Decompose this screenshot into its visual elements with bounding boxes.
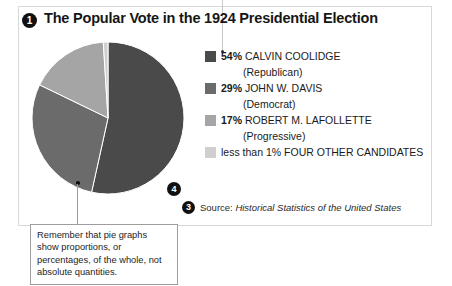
source-title: Historical Statistics of the United Stat… [235, 202, 401, 213]
legend-name-davis: JOHN W. DAVIS [245, 82, 322, 94]
legend-pct-coolidge: 54% [221, 50, 242, 62]
legend-pct-lafollette: 17% [221, 114, 242, 126]
legend-name-other: FOUR OTHER CANDIDATES [284, 146, 423, 158]
legend-item-davis: 29% JOHN W. DAVIS [205, 81, 445, 96]
legend-pct-other-value: less than 1% [221, 146, 281, 158]
legend-swatch-other [205, 147, 216, 158]
legend-pct-davis: 29% [221, 82, 242, 94]
annotation-callout-box: Remember that pie graphs show proportion… [30, 224, 178, 285]
page-title: The Popular Vote in the 1924 Presidentia… [44, 10, 378, 26]
legend-name-lafollette: ROBERT M. LAFOLLETTE [245, 114, 372, 126]
legend-label-lafollette: 17% ROBERT M. LAFOLLETTE [221, 113, 372, 128]
legend-label-coolidge: 54% CALVIN COOLIDGE [221, 49, 340, 64]
pie-slices [32, 42, 184, 194]
legend-swatch-davis [205, 83, 216, 94]
legend-item-other: less than 1% FOUR OTHER CANDIDATES [205, 145, 445, 160]
legend-label-other: less than 1% FOUR OTHER CANDIDATES [221, 145, 423, 160]
legend-party-coolidge: (Republican) [221, 65, 445, 80]
annotation-text: Remember that pie graphs show proportion… [37, 229, 171, 279]
legend-item-lafollette: 17% ROBERT M. LAFOLLETTE [205, 113, 445, 128]
pie-chart [31, 41, 185, 195]
callout-marker-4: 4 [167, 182, 181, 196]
legend-party-lafollette: (Progressive) [221, 129, 445, 144]
pie-leader-line [77, 184, 78, 224]
legend-label-davis: 29% JOHN W. DAVIS [221, 81, 322, 96]
legend-swatch-coolidge [205, 51, 216, 62]
legend: 54% CALVIN COOLIDGE (Republican) 29% JOH… [205, 49, 445, 161]
callout-marker-3: 3 [182, 201, 195, 214]
callout-marker-1: 1 [22, 13, 37, 28]
legend-party-davis: (Democrat) [221, 97, 445, 112]
source-line: Source: Historical Statistics of the Uni… [200, 201, 401, 214]
legend-swatch-lafollette [205, 115, 216, 126]
top-leader-line [222, 0, 223, 52]
legend-pct-other: less than 1% [221, 146, 281, 158]
legend-name-coolidge: CALVIN COOLIDGE [245, 50, 341, 62]
legend-item-coolidge: 54% CALVIN COOLIDGE [205, 49, 445, 64]
source-prefix: Source: [200, 202, 233, 213]
